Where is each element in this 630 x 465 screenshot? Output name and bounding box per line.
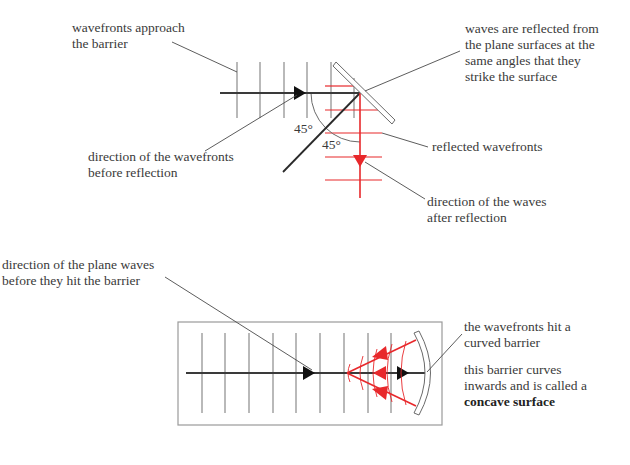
leader-plane-waves — [165, 277, 312, 370]
incident-arrowhead — [294, 86, 306, 100]
reflected-arrowhead-middle — [373, 366, 386, 380]
label-wavefronts-approach: wavefronts approach the barrier — [72, 20, 185, 52]
label-hit-curved-barrier: the wavefronts hit a curved barrier — [464, 319, 571, 351]
label-line: direction of the plane waves — [2, 257, 154, 273]
bottom-diagram — [165, 277, 462, 425]
leader-reflected-wavefronts — [382, 133, 428, 147]
concave-surface-term: concave surface — [464, 394, 555, 409]
label-direction-before: direction of the wavefronts before refle… — [88, 149, 234, 181]
label-line: the wavefronts hit a — [464, 319, 571, 335]
label-line: before they hit the barrier — [2, 273, 154, 289]
label-line: waves are reflected from — [465, 21, 599, 37]
leader-same-angles — [365, 51, 460, 91]
label-line: the barrier — [72, 36, 185, 52]
label-line: direction of the wavefronts — [88, 149, 234, 165]
leader-direction-before — [205, 95, 297, 151]
label-line: strike the surface — [465, 69, 599, 85]
label-line: direction of the waves — [427, 194, 547, 210]
label-line: same angles that they — [465, 53, 599, 69]
label-line: wavefronts approach — [72, 20, 185, 36]
label-line: this barrier curves — [464, 362, 587, 378]
plane-wave-arrowhead-2 — [397, 366, 409, 380]
leader-curved-barrier — [427, 334, 462, 372]
angle-reflection-label: 45° — [322, 137, 341, 153]
label-line: before reflection — [88, 165, 234, 181]
angle-incidence-label: 45° — [294, 121, 313, 137]
label-reflected-wavefronts: reflected wavefronts — [432, 139, 543, 155]
reflected-arrowheads — [372, 346, 388, 400]
reflected-arrowhead — [353, 155, 367, 167]
label-line: curved barrier — [464, 335, 571, 351]
label-direction-after: direction of the waves after reflection — [427, 194, 547, 226]
label-direction-plane-waves: direction of the plane waves before they… — [2, 257, 154, 289]
label-concave-description: this barrier curves inwards and is calle… — [464, 362, 587, 410]
label-reflected-same-angles: waves are reflected from the plane surfa… — [465, 21, 599, 85]
label-line: the plane surfaces at the — [465, 37, 599, 53]
label-line: inwards and is called a — [464, 378, 587, 394]
label-line: after reflection — [427, 210, 547, 226]
